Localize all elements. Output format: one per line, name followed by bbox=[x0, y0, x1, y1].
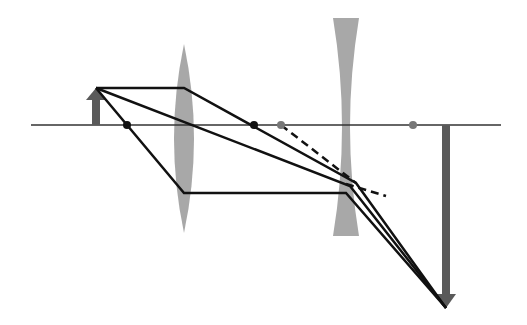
image-arrow-shaft bbox=[442, 125, 450, 296]
ray-diagram bbox=[0, 0, 527, 325]
converging-lens bbox=[174, 44, 194, 233]
focal-ray bbox=[96, 88, 446, 308]
ray-diagram-canvas bbox=[0, 0, 527, 325]
focal-point-f2-right bbox=[409, 121, 417, 129]
object-arrow-shaft bbox=[92, 98, 100, 125]
focal-point-f1-left bbox=[123, 121, 131, 129]
parallel-ray bbox=[96, 88, 446, 308]
focal-point-f2-left bbox=[277, 121, 285, 129]
focal-point-f1-right bbox=[250, 121, 258, 129]
central-ray bbox=[96, 88, 446, 308]
